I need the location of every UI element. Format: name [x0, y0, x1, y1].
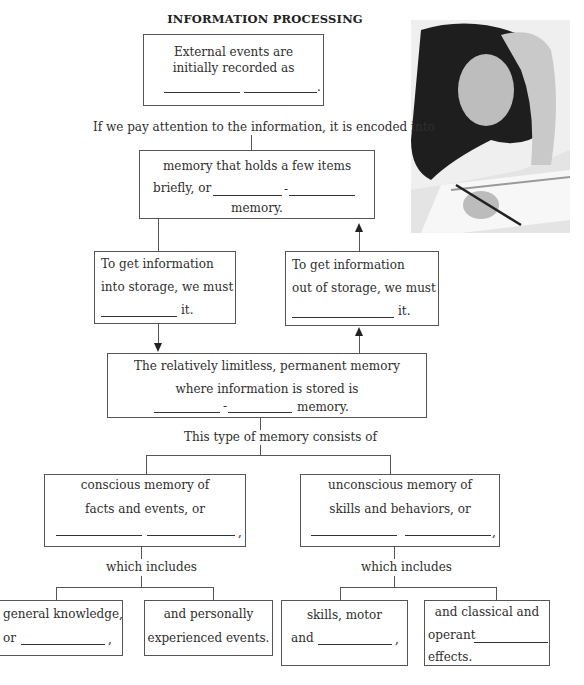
- sensory-memory-box: External events are initially recorded a…: [143, 34, 324, 106]
- retrieve-end: it.: [398, 304, 410, 318]
- explicit-line2: facts and events, or: [45, 502, 245, 516]
- stm-hyphen: -: [284, 182, 288, 196]
- procedural-line1: skills, motor: [282, 608, 407, 622]
- conditioning-blank[interactable]: [474, 642, 548, 643]
- conditioning-line3: effects.: [428, 650, 472, 664]
- sensory-line1: External events are: [144, 45, 323, 59]
- ltm-end: memory.: [297, 400, 349, 414]
- implicit-line1: unconscious memory of: [301, 478, 499, 492]
- connector-line: [158, 219, 159, 251]
- ltm-line1: The relatively limitless, permanent memo…: [108, 359, 426, 373]
- episodic-line2: experienced events.: [145, 631, 272, 645]
- semantic-line2: or: [3, 631, 16, 645]
- implicit-line2: skills and behaviors, or: [301, 502, 499, 516]
- implicit-memory-box: unconscious memory of skills and behavio…: [300, 474, 500, 547]
- ltm-line2: where information is stored is: [108, 382, 426, 396]
- connector-line: [56, 587, 57, 600]
- conditioning-line2: operant: [428, 628, 475, 642]
- conditioning-line1: and classical and: [425, 605, 549, 619]
- sensory-blank-2[interactable]: [244, 92, 317, 93]
- retrieve-line2: out of storage, we must: [292, 281, 436, 295]
- consists-of-text: This type of memory consists of: [184, 430, 377, 444]
- stm-line2: briefly, or: [153, 181, 211, 195]
- bracket-line: [340, 587, 497, 588]
- encode-line2: into storage, we must: [101, 280, 233, 294]
- connector-line: [394, 576, 395, 587]
- stm-blank-1[interactable]: [213, 195, 282, 196]
- explicit-blank-2[interactable]: [147, 535, 235, 536]
- encode-box: To get information into storage, we must…: [94, 251, 236, 324]
- episodic-line1: and personally: [145, 607, 272, 621]
- explicit-blank-1[interactable]: [56, 535, 142, 536]
- connector-line: [359, 336, 360, 353]
- attention-connector-text: If we pay attention to the information, …: [93, 120, 435, 134]
- ltm-hyphen: -: [223, 399, 227, 413]
- sensory-blank-1[interactable]: [164, 92, 240, 93]
- which-includes-right: which includes: [361, 560, 452, 574]
- procedural-line2: and: [291, 631, 314, 645]
- connector-line: [146, 455, 147, 474]
- encode-line1: To get information: [101, 257, 214, 271]
- retrieve-blank[interactable]: [292, 317, 394, 318]
- semantic-blank[interactable]: [21, 644, 105, 645]
- episodic-memory-box: and personally experienced events.: [144, 600, 273, 656]
- bracket-line: [146, 455, 391, 456]
- connector-line: [141, 547, 142, 559]
- connector-line: [251, 135, 252, 151]
- connector-line: [158, 324, 159, 344]
- connector-line: [213, 587, 214, 600]
- encode-blank[interactable]: [101, 316, 177, 317]
- connector-line: [260, 418, 261, 430]
- connector-line: [390, 455, 391, 474]
- procedural-blank[interactable]: [318, 644, 392, 645]
- procedural-comma: ,: [395, 632, 399, 646]
- ltm-blank-1[interactable]: [154, 412, 220, 413]
- sensory-line2: initially recorded as: [144, 61, 323, 75]
- student-photo: [411, 20, 570, 233]
- semantic-line1: general knowledge,: [3, 607, 123, 621]
- which-includes-left: which includes: [106, 560, 197, 574]
- conditioning-box: and classical and operant effects.: [424, 600, 550, 666]
- short-term-memory-box: memory that holds a few items briefly, o…: [139, 150, 375, 219]
- retrieve-line1: To get information: [292, 258, 405, 272]
- connector-line: [359, 232, 360, 251]
- explicit-memory-box: conscious memory of facts and events, or…: [44, 474, 246, 547]
- connector-line: [394, 547, 395, 559]
- ltm-blank-2[interactable]: [228, 412, 292, 413]
- implicit-blank-2[interactable]: [405, 535, 491, 536]
- semantic-comma: ,: [108, 632, 112, 646]
- arrow-down-icon: [154, 343, 162, 352]
- stm-blank-2[interactable]: [289, 195, 355, 196]
- bracket-line: [56, 587, 214, 588]
- explicit-comma: ,: [238, 525, 242, 539]
- stm-line3: memory.: [140, 201, 374, 215]
- explicit-line1: conscious memory of: [45, 478, 245, 492]
- connector-line: [340, 587, 341, 600]
- semantic-memory-box: general knowledge, or ,: [0, 600, 123, 656]
- encode-end: it.: [181, 303, 193, 317]
- implicit-blank-1[interactable]: [311, 535, 397, 536]
- retrieve-box: To get information out of storage, we mu…: [285, 251, 439, 326]
- implicit-comma: ,: [492, 525, 496, 539]
- connector-line: [141, 576, 142, 587]
- long-term-memory-box: The relatively limitless, permanent memo…: [107, 353, 427, 418]
- connector-line: [496, 587, 497, 600]
- arrow-up-icon: [355, 327, 363, 336]
- procedural-memory-box: skills, motor and ,: [281, 600, 408, 666]
- arrow-up-icon: [355, 223, 363, 232]
- sensory-period: .: [317, 80, 321, 94]
- stm-line1: memory that holds a few items: [140, 159, 374, 173]
